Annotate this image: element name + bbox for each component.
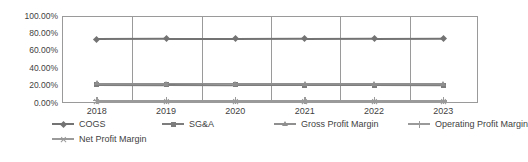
legend-item-cogs[interactable]: COGS [52,119,106,130]
plot-area [62,16,478,103]
triangle-marker-icon [274,119,296,129]
legend-label: COGS [79,119,106,130]
legend-item-operating-profit-margin[interactable]: Operating Profit Margin [408,119,528,130]
legend-item-net-profit-margin[interactable]: Net Profit Margin [52,134,147,145]
vertical-gridline [271,17,272,102]
y-axis-tick-label: 20.00% [0,81,58,90]
legend-label: Operating Profit Margin [435,119,528,130]
asterisk-marker-icon [52,134,74,144]
vertical-gridline [132,17,133,102]
vertical-gridline [410,17,411,102]
x-axis-tick-label: 2018 [67,106,127,117]
y-axis-tick-label: 80.00% [0,29,58,38]
x-axis-tick-label: 2020 [205,106,265,117]
vertical-gridline [340,17,341,102]
chart-legend: COGSSG&AGross Profit MarginOperating Pro… [52,124,496,162]
legend-label: SG&A [189,119,214,130]
square-marker-icon [162,119,184,129]
legend-item-gross-profit-margin[interactable]: Gross Profit Margin [274,119,379,130]
x-axis-tick-label: 2019 [136,106,196,117]
y-axis-labels: 100.00%80.00%60.00%40.00%20.00%0.00% [0,0,58,120]
legend-label: Net Profit Margin [79,134,147,145]
y-axis-tick-label: 0.00% [0,99,58,108]
y-axis-tick-label: 100.00% [0,12,58,21]
vertical-gridline [202,17,203,102]
cross-marker-icon [408,119,430,129]
y-axis-tick-label: 40.00% [0,64,58,73]
legend-label: Gross Profit Margin [301,119,379,130]
diamond-marker-icon [52,119,74,129]
x-axis-tick-label: 2022 [344,106,404,117]
x-axis-tick-label: 2023 [413,106,473,117]
legend-item-sg-a[interactable]: SG&A [162,119,214,130]
x-axis-tick-label: 2021 [275,106,335,117]
y-axis-tick-label: 60.00% [0,46,58,55]
